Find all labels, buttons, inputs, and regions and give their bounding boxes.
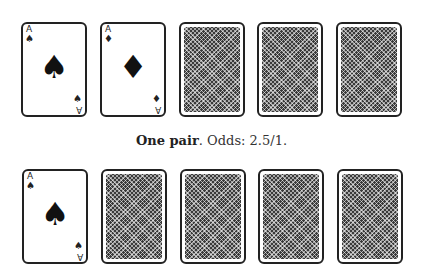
card-face-down (337, 169, 403, 264)
card-back-pattern (262, 27, 318, 112)
card-face-down (179, 22, 245, 117)
diamond-icon: ♦ (102, 50, 164, 84)
card-ace-of-spades: A ♠ ♠ ♠ A (21, 22, 87, 117)
spade-icon: ♠ (26, 181, 35, 191)
card-back-pattern (106, 174, 162, 259)
card-back-pattern (185, 174, 241, 259)
diamond-icon: ♦ (152, 94, 161, 104)
diamond-icon: ♦ (104, 34, 113, 44)
card-face-down (257, 22, 323, 117)
card-face-down (258, 169, 324, 264)
spade-icon: ♠ (74, 241, 83, 251)
card-back-pattern (184, 27, 240, 112)
hand-caption: One pair. Odds: 2.5/1. (0, 133, 423, 148)
card-ace-of-diamonds: A ♦ ♦ ♦ A (100, 22, 166, 117)
card-back-pattern (342, 174, 398, 259)
spade-icon: ♠ (24, 197, 86, 231)
card-face-down (101, 169, 167, 264)
spade-icon: ♠ (25, 34, 34, 44)
card-face-down (336, 22, 402, 117)
card-back-pattern (263, 174, 319, 259)
card-ace-of-spades: A ♠ ♠ ♠ A (22, 169, 88, 264)
card-rank: A (77, 252, 83, 261)
hand-name: One pair (136, 133, 199, 148)
card-face-down (180, 169, 246, 264)
odds-text: . Odds: 2.5/1. (199, 133, 287, 148)
card-rank: A (76, 105, 82, 114)
spade-icon: ♠ (23, 50, 85, 84)
card-back-pattern (341, 27, 397, 112)
card-rank: A (155, 105, 161, 114)
spade-icon: ♠ (73, 94, 82, 104)
